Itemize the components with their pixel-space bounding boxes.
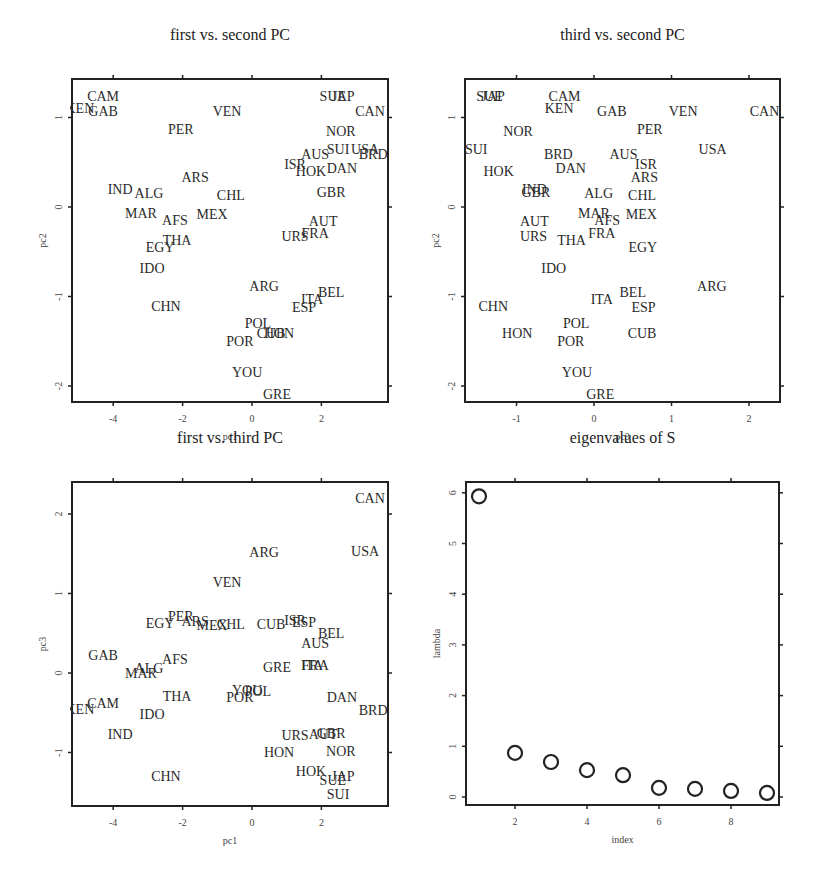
country-label-arg: ARG [249, 279, 279, 294]
eigenvalue-point [580, 763, 594, 777]
country-label-ven: VEN [669, 104, 698, 119]
country-label-arg: ARG [697, 279, 727, 294]
country-label-usa: USA [699, 142, 728, 157]
country-label-tha: THA [163, 689, 193, 704]
country-label-arg: ARG [249, 545, 279, 560]
x-tick-label: -4 [109, 413, 117, 424]
x-tick-label: -4 [109, 817, 117, 828]
y-axis-label: lambda [431, 628, 442, 658]
x-tick-label: 2 [319, 413, 324, 424]
country-label-ken: KEN [65, 702, 94, 717]
eigenvalue-point [724, 784, 738, 798]
y-tick-label: 2 [53, 512, 64, 517]
y-tick-label: 0 [53, 671, 64, 676]
country-label-ita: ITA [591, 292, 614, 307]
country-label-can: CAN [355, 104, 385, 119]
country-label-ven: VEN [213, 104, 242, 119]
country-label-ido: IDO [541, 261, 566, 276]
country-label-hon: HON [264, 326, 294, 341]
country-label-jap: JAP [331, 89, 355, 104]
country-label-can: CAN [355, 491, 385, 506]
y-tick-label: 1 [447, 744, 458, 749]
country-label-gre: GRE [263, 660, 291, 675]
country-label-chn: CHN [478, 299, 508, 314]
country-label-gre: GRE [263, 387, 291, 402]
y-tick-label: -2 [53, 382, 64, 390]
country-label-you: YOU [232, 683, 262, 698]
country-label-sui: SUI [327, 142, 350, 157]
x-tick-label: 2 [319, 817, 324, 828]
y-tick-label: -1 [446, 292, 457, 300]
country-label-afs: AFS [162, 652, 188, 667]
panel-first-vs-third: first vs. third PC-4-202-1012pc1pc3CAMKE… [37, 429, 392, 846]
country-label-esp: ESP [632, 300, 656, 315]
y-axis-label: pc2 [37, 233, 48, 247]
country-label-aut: AUT [520, 214, 549, 229]
y-axis-label: pc3 [37, 637, 48, 651]
country-label-aus: AUS [609, 147, 637, 162]
country-label-bel: BEL [620, 285, 646, 300]
country-label-hon: HON [264, 745, 294, 760]
x-tick-label: 0 [592, 413, 597, 424]
country-label-tha: THA [557, 233, 587, 248]
country-label-fra: FRA [588, 226, 616, 241]
plot-frame [466, 482, 779, 805]
y-tick-label: 0 [53, 205, 64, 210]
country-label-ind: IND [108, 182, 133, 197]
y-tick-label: 1 [53, 115, 64, 120]
y-tick-label: 3 [447, 642, 458, 647]
panel-eigenvalues: eigenvalues of S24680123456indexlambda [431, 429, 783, 845]
country-label-gbr: GBR [317, 185, 346, 200]
country-label-esp: ESP [292, 300, 316, 315]
country-label-brd: BRD [359, 147, 388, 162]
x-axis-label: pc1 [223, 835, 237, 846]
x-tick-label: 0 [250, 413, 255, 424]
x-tick-label: 1 [669, 413, 674, 424]
plot-area: CAMKENGABVENPERSUEJAPCANNORSUIUSABRDAUSI… [465, 89, 779, 402]
eigenvalue-point [760, 786, 774, 800]
panel-first-vs-second: first vs. second PC-4-202-2-101pc1pc2CAM… [37, 26, 392, 442]
x-tick-label: 0 [250, 817, 255, 828]
country-label-egy: EGY [146, 616, 175, 631]
country-label-dan: DAN [327, 161, 357, 176]
eigenvalue-point [508, 746, 522, 760]
country-label-por: POR [226, 334, 254, 349]
country-label-ita: ITA [301, 658, 324, 673]
country-label-nor: NOR [326, 124, 356, 139]
country-label-nor: NOR [326, 744, 356, 759]
country-label-egy: EGY [628, 240, 657, 255]
y-tick-label: 6 [447, 490, 458, 495]
panel-title: eigenvalues of S [570, 429, 676, 447]
pca-figure: first vs. second PC-4-202-2-101pc1pc2CAM… [0, 0, 823, 877]
country-label-ido: IDO [140, 707, 165, 722]
country-label-mex: MEX [197, 207, 228, 222]
country-label-gab: GAB [88, 104, 118, 119]
eigenvalue-point [652, 781, 666, 795]
country-label-nor: NOR [503, 124, 533, 139]
country-label-can: CAN [750, 104, 780, 119]
country-label-cub: CUB [257, 617, 286, 632]
country-label-mex: MEX [197, 618, 228, 633]
x-tick-label: 2 [747, 413, 752, 424]
country-label-aut: AUT [309, 727, 338, 742]
panel-title: first vs. third PC [177, 429, 283, 446]
country-label-chn: CHN [151, 769, 181, 784]
country-label-urs: URS [520, 229, 547, 244]
country-label-hok: HOK [296, 764, 326, 779]
country-label-chn: CHN [151, 299, 181, 314]
country-label-gre: GRE [586, 387, 614, 402]
x-tick-label: -2 [178, 817, 186, 828]
panel-title: third vs. second PC [560, 26, 684, 43]
country-label-mar: MAR [125, 206, 158, 221]
country-label-alg: ALG [584, 186, 613, 201]
country-label-fra: FRA [302, 226, 330, 241]
country-label-ars: ARS [631, 170, 658, 185]
panel-third-vs-second: third vs. second PC-1012-2-101pc3pc2CAMK… [430, 26, 784, 442]
plot-area: CAMKENGABVENPERSUEJAPCANNORSUIUSABRDAUSI… [65, 491, 387, 802]
country-label-ind: IND [108, 727, 133, 742]
country-label-ken: KEN [545, 101, 574, 116]
y-axis-label: pc2 [430, 233, 441, 247]
y-tick-label: 2 [447, 693, 458, 698]
panel-title: first vs. second PC [170, 26, 290, 43]
country-label-sui: SUI [327, 787, 350, 802]
